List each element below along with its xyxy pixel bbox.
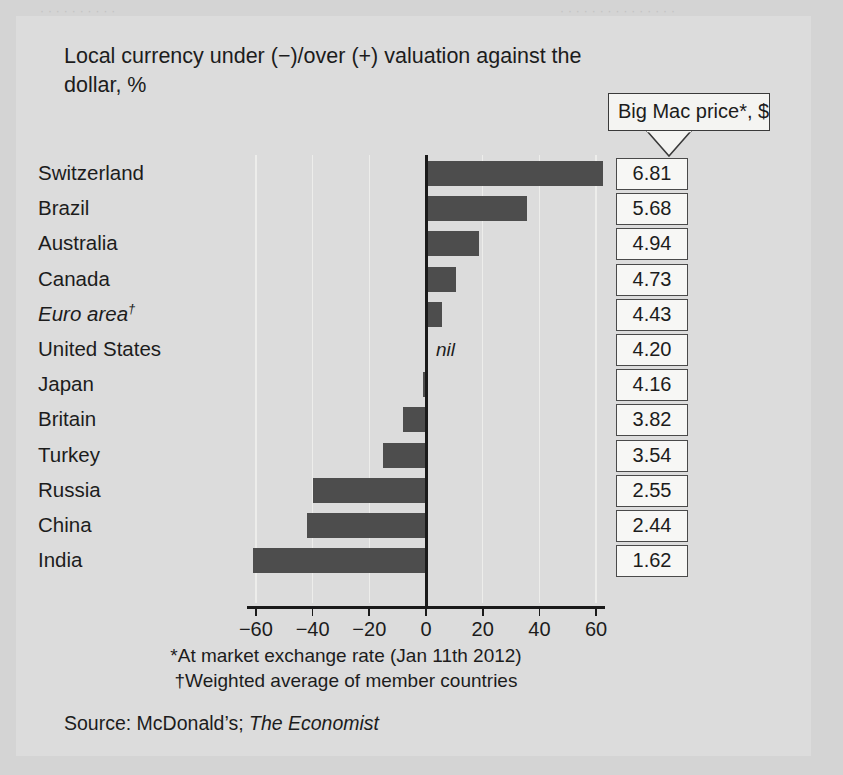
chart-row: China2.44 [16,509,811,544]
price-box: 2.55 [616,475,688,507]
price-box: 4.16 [616,369,688,401]
footnote-dagger: †Weighted average of member countries [16,668,676,693]
axis-tick-label: −20 [352,617,386,641]
axis-tick [255,609,257,616]
price-box: 3.82 [616,404,688,436]
country-label: India [38,547,228,573]
bar [428,196,527,221]
axis-tick-label: 20 [472,617,494,641]
chart-row: India1.62 [16,544,811,579]
country-label: Russia [38,477,228,503]
source-prefix: Source: McDonald’s; [64,712,249,734]
country-label: Canada [38,266,228,292]
axis-tick [482,609,484,616]
country-label: Brazil [38,195,228,221]
bar [403,407,426,432]
country-label: Euro area† [38,301,228,327]
bar [253,548,426,573]
background-page-text: · · · · · · · · · · [40,4,116,18]
background-page-text: · · · · · · · · · · · · · · · [560,4,675,18]
price-box: 4.43 [616,299,688,331]
bar [428,302,442,327]
footnote-asterisk: *At market exchange rate (Jan 11th 2012) [16,643,676,668]
zero-axis [425,155,429,607]
country-label: United States [38,336,228,362]
price-box: 1.62 [616,545,688,577]
chart-row: Japan4.16 [16,368,811,403]
price-box: 2.44 [616,510,688,542]
bar [428,231,479,256]
axis-tick-label: 60 [585,617,607,641]
nil-annotation: nil [436,337,455,362]
axis-tick-label: −60 [239,617,273,641]
chart-panel: Local currency under (−)/over (+) valuat… [16,16,811,756]
chart-row: Switzerland6.81 [16,157,811,192]
chart-row: United Statesnil4.20 [16,333,811,368]
axis-tick-label: 40 [528,617,550,641]
chart-row: Britain3.82 [16,403,811,438]
country-label: Britain [38,406,228,432]
bar [313,478,426,503]
price-box: 4.73 [616,264,688,296]
country-label: China [38,512,228,538]
country-label: Turkey [38,442,228,468]
chart-row: Euro area†4.43 [16,298,811,333]
price-box: 4.20 [616,334,688,366]
source-line: Source: McDonald’s; The Economist [64,711,379,736]
chart-row: Canada4.73 [16,263,811,298]
bar [307,513,426,538]
axis-tick [312,609,314,616]
chart-row: Brazil5.68 [16,192,811,227]
bar [428,161,604,186]
chart-row: Australia4.94 [16,227,811,262]
footnotes: *At market exchange rate (Jan 11th 2012)… [16,643,676,693]
bar [383,443,426,468]
axis-tick [539,609,541,616]
axis-tick [425,609,427,616]
axis-tick [595,609,597,616]
chart-row: Russia2.55 [16,474,811,509]
axis-tick-label: 0 [420,617,431,641]
axis-tick [368,609,370,616]
bar [428,267,456,292]
price-box: 4.94 [616,228,688,260]
price-box: 6.81 [616,158,688,190]
axis-tick-label: −40 [296,617,330,641]
country-label: Switzerland [38,160,228,186]
price-box: 3.54 [616,440,688,472]
price-box: 5.68 [616,193,688,225]
page-background: Local currency under (−)/over (+) valuat… [0,0,843,775]
country-label: Japan [38,371,228,397]
country-label: Australia [38,230,228,256]
source-publication: The Economist [249,712,379,734]
dagger-marker: † [128,301,135,316]
chart-row: Turkey3.54 [16,439,811,474]
